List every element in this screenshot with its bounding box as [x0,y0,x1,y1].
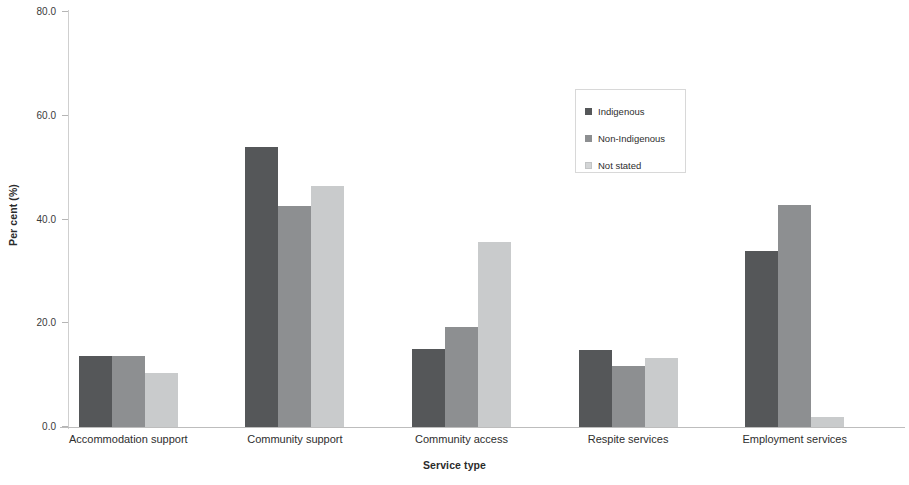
legend-item[interactable]: Indigenous [585,101,685,122]
legend-item[interactable]: Non-Indigenous [585,128,685,149]
bar-group [412,12,511,427]
x-axis-title: Service type [0,459,909,471]
y-axis-tick-label: 20.0 [37,317,56,329]
bar[interactable] [778,205,811,427]
legend-swatch-icon [585,108,592,115]
legend-item[interactable]: Not stated [585,155,685,176]
bar[interactable] [112,356,145,427]
bar-group [579,12,678,427]
bar[interactable] [478,242,511,427]
bar[interactable] [145,373,178,427]
y-axis-tick: 40.0 [0,214,68,226]
y-axis-tick-label: 80.0 [37,6,56,18]
legend-swatch-icon [585,162,592,169]
y-axis-tick: 60.0 [0,110,68,122]
y-axis-tick: 80.0 [0,6,68,18]
bar[interactable] [445,327,478,427]
bar-chart: Per cent (%) 0.020.040.060.080.0 Accommo… [0,0,909,485]
bar[interactable] [745,251,778,427]
bar[interactable] [412,349,445,427]
x-axis-category-label: Employment services [685,431,905,447]
bar[interactable] [612,366,645,427]
bar[interactable] [311,186,344,427]
bar[interactable] [579,350,612,427]
bar-group [745,12,844,427]
bar-group [79,12,178,427]
bar[interactable] [278,206,311,427]
legend-swatch-icon [585,135,592,142]
legend-item-label: Indigenous [598,106,644,117]
bar[interactable] [79,356,112,427]
bar[interactable] [811,417,844,427]
legend-item-label: Not stated [598,160,641,171]
chart-legend: IndigenousNon-IndigenousNot stated [575,89,686,173]
plot-area [68,12,901,427]
y-axis-tick-label: 60.0 [37,110,56,122]
bar-group [245,12,344,427]
y-axis-tick: 20.0 [0,317,68,329]
bar[interactable] [245,147,278,427]
bar[interactable] [645,358,678,428]
y-axis-tick-label: 40.0 [37,214,56,226]
x-axis-line [60,427,905,428]
legend-item-label: Non-Indigenous [598,133,665,144]
